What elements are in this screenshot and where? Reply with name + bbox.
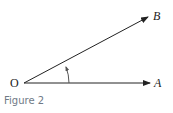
- label-origin: O: [10, 76, 19, 91]
- figure: O A B Figure 2: [0, 0, 173, 113]
- label-a: A: [154, 76, 161, 91]
- ray-ob: [24, 17, 148, 83]
- label-b: B: [153, 9, 160, 24]
- figure-caption: Figure 2: [4, 95, 44, 106]
- angle-arc-icon: [66, 67, 69, 83]
